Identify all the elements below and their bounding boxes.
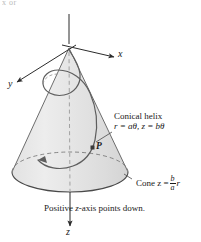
point-p-marker	[91, 146, 95, 150]
conical-helix-figure: x or	[0, 0, 201, 242]
cone-equation-prefix: Cone z =	[136, 179, 169, 189]
cone-fraction-numerator: b	[170, 175, 176, 183]
cone-fraction-denominator: a	[170, 183, 176, 192]
conical-helix-annotation: Conical helix r = aθ, z = bθ	[114, 112, 165, 131]
caption-after: -axis points down.	[79, 203, 145, 213]
cone-equation-suffix: r	[177, 179, 181, 189]
figure-caption: Positive z-axis points down.	[44, 204, 145, 214]
z-axis-label: z	[66, 227, 70, 238]
point-p-label: P	[96, 141, 102, 151]
caption-before: Positive	[44, 203, 75, 213]
conical-helix-equation: r = aθ, z = bθ	[114, 122, 165, 132]
x-axis-label: x	[118, 49, 122, 60]
cone-equation-annotation: Cone z = b a r	[136, 175, 180, 192]
y-axis-label: y	[8, 79, 12, 90]
cone-equation-fraction: b a	[170, 175, 176, 192]
